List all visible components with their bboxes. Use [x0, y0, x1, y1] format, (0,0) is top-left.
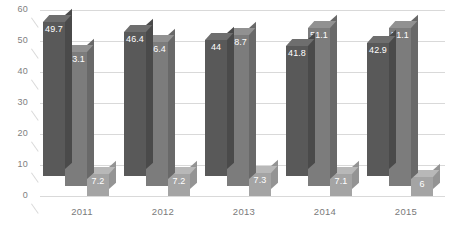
bar-2014-series3[interactable]: 7.1 [330, 174, 352, 196]
bar-side-face [146, 19, 153, 169]
y-tick-20: 20 [18, 129, 28, 138]
gridline-slant-40 [31, 79, 39, 89]
y-tick-50: 50 [18, 36, 28, 45]
x-tick-2014: 2014 [290, 206, 360, 217]
bar-front-face [124, 32, 146, 176]
bar-2013-series1[interactable]: 44 [205, 40, 227, 176]
x-tick-2015: 2015 [371, 206, 441, 217]
bar-side-face [352, 161, 359, 189]
gridline-slant-50 [31, 48, 39, 58]
chart-3d-column: 60 50 40 30 20 10 0 7.2 43.1 49.7 [0, 0, 457, 232]
data-label: 7.2 [87, 176, 109, 186]
bar-side-face [433, 164, 440, 189]
bar-side-face [411, 14, 418, 179]
bar-side-face [308, 33, 315, 169]
bar-side-face [168, 29, 175, 179]
gridline-60 [40, 10, 445, 11]
gridline-slant-10 [31, 172, 39, 182]
bar-front-face [367, 43, 389, 176]
bar-2015-series3[interactable]: 6 [411, 177, 433, 196]
bar-front-face [286, 46, 308, 176]
bar-side-face [389, 30, 396, 169]
data-label: 44 [205, 42, 227, 52]
data-label: 7.3 [249, 175, 271, 185]
x-tick-2012: 2012 [128, 206, 198, 217]
bar-2011-series3[interactable]: 7.2 [87, 174, 109, 196]
data-label: 7.2 [168, 176, 190, 186]
y-tick-10: 10 [18, 160, 28, 169]
bar-side-face [109, 160, 116, 189]
bar-2014-series1[interactable]: 41.8 [286, 46, 308, 176]
data-label: 7.1 [330, 176, 352, 186]
gridline-slant-20 [31, 141, 39, 151]
bar-2012-series1[interactable]: 46.4 [124, 32, 146, 176]
y-axis: 60 50 40 30 20 10 0 [0, 0, 28, 232]
bar-side-face [65, 9, 72, 169]
gridline-slant-30 [31, 110, 39, 120]
bar-2013-series3[interactable]: 7.3 [249, 173, 271, 196]
bar-front-face [205, 40, 227, 176]
bar-2012-series3[interactable]: 7.2 [168, 174, 190, 196]
data-label: 46.4 [124, 34, 146, 44]
x-tick-2013: 2013 [209, 206, 279, 217]
y-tick-60: 60 [18, 5, 28, 14]
gridline-slant-0 [31, 203, 39, 213]
y-tick-30: 30 [18, 98, 28, 107]
data-label: 42.9 [367, 45, 389, 55]
bar-front-face [43, 22, 65, 176]
x-tick-2011: 2011 [47, 206, 117, 217]
bar-side-face [227, 26, 234, 169]
bar-side-face [190, 160, 197, 189]
y-tick-40: 40 [18, 67, 28, 76]
bar-side-face [249, 22, 256, 179]
gridline-slant-60 [31, 17, 39, 27]
y-tick-0: 0 [23, 191, 28, 200]
data-label: 41.8 [286, 48, 308, 58]
data-label: 49.7 [43, 24, 65, 34]
bar-side-face [87, 39, 94, 179]
bar-side-face [330, 14, 337, 179]
data-label: 6 [411, 179, 433, 189]
bar-2015-series1[interactable]: 42.9 [367, 43, 389, 176]
bar-2011-series1[interactable]: 49.7 [43, 22, 65, 176]
gridline-0 [40, 196, 445, 197]
bar-side-face [271, 160, 278, 189]
